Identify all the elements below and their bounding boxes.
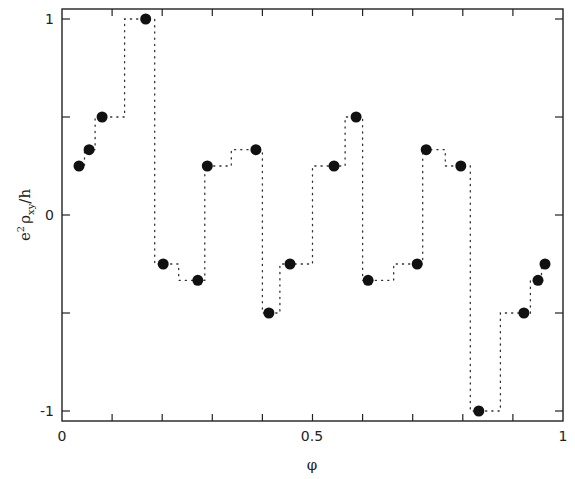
data-point	[421, 144, 432, 155]
y-axis-ticks	[62, 19, 563, 411]
data-point	[363, 275, 374, 286]
data-point	[202, 161, 213, 172]
x-axis-label: φ	[307, 456, 318, 474]
data-point	[351, 112, 362, 123]
y-label-rho: ρ	[16, 215, 34, 224]
y-tick-label-0: 0	[45, 207, 54, 223]
y-label-superscript: 2	[15, 226, 26, 232]
svg-text:e2ρxy/h: e2ρxy/h	[15, 189, 36, 241]
x-tick-label-1: 1	[559, 428, 568, 444]
data-point	[158, 259, 169, 270]
y-label-subscript: xy	[25, 203, 36, 215]
x-tick-label-0-5: 0.5	[301, 428, 323, 444]
dotted-step-path	[79, 19, 545, 411]
data-points	[74, 14, 551, 417]
data-point	[285, 259, 296, 270]
data-point	[540, 259, 551, 270]
data-point	[263, 308, 274, 319]
y-label-e: e	[16, 232, 34, 241]
data-point	[518, 308, 529, 319]
y-label-tail: /h	[16, 189, 34, 204]
y-axis-label: e2ρxy/h	[15, 189, 36, 241]
chart-canvas: 0 0.5 1 1 0 -1 φ e2ρxy/h	[0, 0, 575, 479]
data-point	[412, 259, 423, 270]
x-tick-label-0: 0	[58, 428, 67, 444]
step-line	[79, 19, 545, 411]
data-point	[97, 112, 108, 123]
data-point	[250, 144, 261, 155]
data-point	[329, 161, 340, 172]
data-point	[84, 144, 95, 155]
plot-frame	[62, 9, 563, 421]
data-point	[533, 275, 544, 286]
data-point	[473, 406, 484, 417]
data-point	[74, 161, 85, 172]
y-tick-label-minus-1: -1	[40, 403, 54, 419]
data-point	[455, 161, 466, 172]
x-axis-ticks	[112, 9, 513, 421]
data-point	[140, 14, 151, 25]
data-point	[192, 275, 203, 286]
y-tick-label-1: 1	[45, 11, 54, 27]
